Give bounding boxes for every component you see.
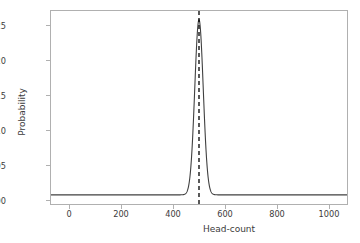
x-axis-label: Head-count	[0, 224, 360, 234]
ytick-label: 0.025	[0, 22, 6, 30]
chart-figure: 0.000 0.005 0.010 0.015 0.020 0.025 0 20…	[0, 0, 360, 243]
ytick-label: 0.005	[0, 162, 6, 170]
ytick-label: 0.000	[0, 197, 6, 205]
xtick-label: 1000	[319, 210, 340, 218]
ytick-label: 0.020	[0, 57, 6, 65]
y-axis-label: Probability	[17, 52, 27, 172]
xtick-label: 800	[269, 210, 285, 218]
ytick-label: 0.015	[0, 92, 6, 100]
x-axis-label-text: Head-count	[203, 224, 255, 234]
plot-area	[50, 10, 348, 205]
plot-canvas	[51, 11, 347, 204]
xtick-label: 0	[66, 210, 71, 218]
ytick-label: 0.010	[0, 127, 6, 135]
xtick-label: 200	[113, 210, 129, 218]
xtick-label: 400	[165, 210, 181, 218]
xtick-label: 600	[217, 210, 233, 218]
